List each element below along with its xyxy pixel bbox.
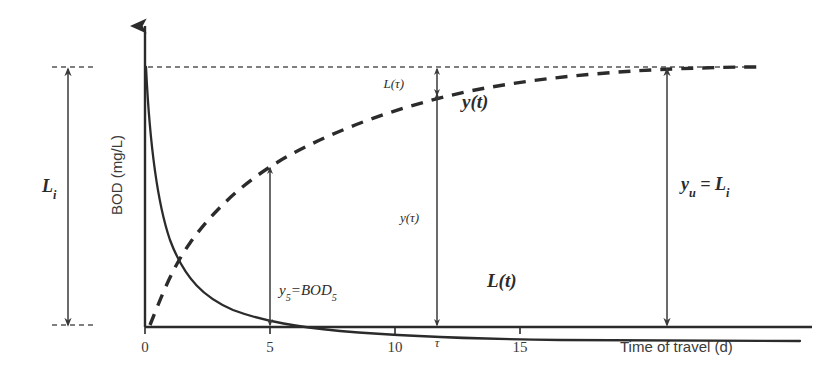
- right-bracket-label: yu = Li: [679, 174, 730, 200]
- x-tick-label-5: 5: [266, 339, 274, 355]
- y-tau-label: y(τ): [398, 210, 419, 225]
- bod-curve-figure: 0 5 10 τ 15 Time of travel (d) BOD (mg/L…: [0, 0, 832, 378]
- bod5-label: y5=BOD5: [277, 282, 337, 303]
- annotation-right-bracket-yu-Li: yu = Li: [667, 69, 730, 325]
- bod-chart-svg: 0 5 10 τ 15 Time of travel (d) BOD (mg/L…: [0, 0, 832, 378]
- L-tau-label: L(τ): [382, 76, 404, 91]
- x-tick-label-0: 0: [141, 339, 149, 355]
- curve-label-Lt: L(t): [486, 270, 517, 292]
- annotation-bod5: y5=BOD5: [270, 168, 337, 325]
- y-axis-title: BOD (mg/L): [108, 135, 125, 215]
- left-bracket-label: Li: [41, 176, 57, 202]
- annotation-left-bracket-Li: Li: [41, 69, 96, 325]
- x-tick-label-10: 10: [388, 339, 403, 355]
- annotation-y-tau: y(τ): [398, 94, 437, 325]
- bod-exerted-curve-yt: [150, 67, 757, 325]
- annotation-L-tau: L(τ): [382, 69, 437, 95]
- x-tick-label-15: 15: [513, 339, 528, 355]
- curve-label-yt: y(t): [460, 91, 488, 113]
